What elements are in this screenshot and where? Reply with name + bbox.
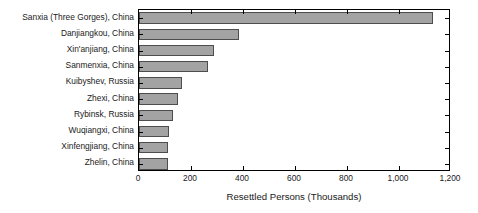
x-tick-bottom	[295, 166, 296, 170]
category-label: Kuibyshev, Russia	[0, 77, 134, 85]
bar	[139, 126, 169, 138]
y-tick-left	[139, 18, 143, 19]
bar	[139, 77, 182, 89]
bar	[139, 12, 433, 24]
bar	[139, 142, 168, 154]
x-tick-label: 200	[183, 174, 197, 182]
y-tick-left	[139, 51, 143, 52]
y-tick-left	[139, 34, 143, 35]
x-tick-bottom	[399, 166, 400, 170]
x-tick-bottom	[191, 166, 192, 170]
category-label: Zhexi, China	[0, 94, 134, 102]
plot-area	[138, 9, 450, 171]
bar	[139, 158, 168, 170]
y-tick-right	[445, 51, 449, 52]
y-tick-left	[139, 115, 143, 116]
x-tick-label: 400	[235, 174, 249, 182]
y-tick-left	[139, 148, 143, 149]
category-label: Danjiangkou, China	[0, 29, 134, 37]
bar	[139, 45, 214, 57]
y-tick-right	[445, 18, 449, 19]
category-label: Rybinsk, Russia	[0, 110, 134, 118]
y-tick-left	[139, 83, 143, 84]
category-label: Xin'anjiang, China	[0, 45, 134, 53]
x-axis-title: Resettled Persons (Thousands)	[138, 192, 450, 202]
y-tick-right	[445, 67, 449, 68]
x-tick-label: 1,200	[440, 174, 461, 182]
bar	[139, 110, 173, 122]
x-tick-top	[295, 10, 296, 14]
x-tick-bottom	[243, 166, 244, 170]
x-tick-bottom	[347, 166, 348, 170]
category-label: Sanmenxia, China	[0, 61, 134, 69]
y-tick-right	[445, 99, 449, 100]
y-tick-left	[139, 132, 143, 133]
x-tick-label: 600	[287, 174, 301, 182]
bar	[139, 61, 208, 73]
y-tick-left	[139, 67, 143, 68]
y-tick-left	[139, 99, 143, 100]
y-tick-right	[445, 164, 449, 165]
category-axis-labels: Sanxia (Three Gorges), ChinaDanjiangkou,…	[0, 9, 134, 171]
y-tick-right	[445, 115, 449, 116]
x-tick-top	[347, 10, 348, 14]
y-tick-left	[139, 164, 143, 165]
y-tick-right	[445, 83, 449, 84]
y-tick-right	[445, 34, 449, 35]
x-tick-top	[243, 10, 244, 14]
category-label: Wuqiangxi, China	[0, 126, 134, 134]
x-tick-top	[399, 10, 400, 14]
x-tick-label: 1,000	[388, 174, 409, 182]
y-tick-right	[445, 132, 449, 133]
bar	[139, 93, 178, 105]
category-label: Xinfengjiang, China	[0, 142, 134, 150]
x-tick-label: 800	[339, 174, 353, 182]
x-tick-top	[191, 10, 192, 14]
category-label: Zhelin, China	[0, 158, 134, 166]
bar	[139, 29, 239, 41]
bar-chart-figure: Sanxia (Three Gorges), ChinaDanjiangkou,…	[0, 0, 478, 213]
category-label: Sanxia (Three Gorges), China	[0, 13, 134, 21]
y-tick-right	[445, 148, 449, 149]
x-tick-label: 0	[136, 174, 141, 182]
